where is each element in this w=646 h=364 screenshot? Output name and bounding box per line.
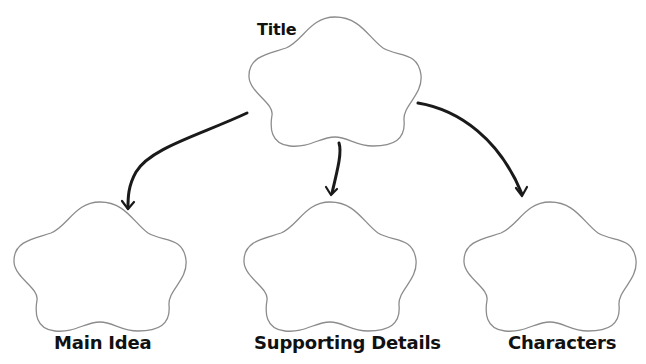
arrow-to-characters xyxy=(418,103,527,196)
characters-cloud xyxy=(464,202,636,331)
supporting-details-label: Supporting Details xyxy=(254,332,441,353)
supporting-details-cloud xyxy=(244,202,416,331)
arrow-to-main-idea xyxy=(122,113,247,209)
title-label: Title xyxy=(257,20,296,39)
characters-label: Characters xyxy=(508,332,616,353)
main-idea-cloud xyxy=(14,202,186,331)
main-idea-label: Main Idea xyxy=(54,332,151,353)
arrow-to-supporting-details xyxy=(326,143,340,195)
concept-map-canvas xyxy=(0,0,646,364)
